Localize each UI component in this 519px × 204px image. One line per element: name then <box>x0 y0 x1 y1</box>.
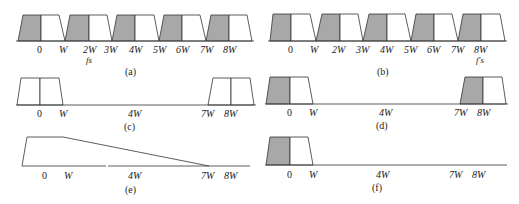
panel-f: 0 W 4W 7W 8W (f) <box>265 137 507 194</box>
panel-c-spectrum-0-left <box>17 78 40 105</box>
tick-label: 0 <box>287 107 292 118</box>
panel-b-replica-4 <box>411 14 458 41</box>
panel-f-spectrum-shaded <box>266 137 290 165</box>
tick-label: 3W <box>103 44 119 55</box>
fs-prime-label: f's <box>476 55 484 65</box>
tick-label: 4W <box>380 44 395 55</box>
panel-b-replica-2 <box>316 14 363 41</box>
fs-label: fs <box>86 55 93 65</box>
panel-b-replica-5 <box>458 14 505 41</box>
tick-label: 4W <box>129 44 144 55</box>
panel-c-caption: (c) <box>124 121 135 133</box>
panel-a-replica-4 <box>159 15 206 41</box>
tick-label: 8W <box>474 44 489 55</box>
tick-label: W <box>310 44 320 55</box>
tick-label: 6W <box>427 44 442 55</box>
panel-a-replica-5 <box>206 15 252 41</box>
tick-label: 4W <box>379 107 394 118</box>
tick-label: 7W <box>451 44 466 55</box>
tick-label: W <box>309 169 319 180</box>
tick-label: 0 <box>42 170 47 181</box>
tick-label: W <box>59 108 69 119</box>
tick-label: 8W <box>224 108 239 119</box>
tick-label: 0 <box>37 44 42 55</box>
spectrum-diagram: 0 W 2W 3W 4W 5W 6W 7W 8W fs (a) <box>0 0 519 204</box>
tick-label: W <box>64 170 74 181</box>
panel-d-spectrum-0-right <box>290 77 313 104</box>
panel-e-filter-response <box>22 137 209 166</box>
panel-a: 0 W 2W 3W 4W 5W 6W 7W 8W fs (a) <box>16 15 254 78</box>
panel-b: 0 W 2W 3W 4W 5W 6W 7W 8W f's (b) <box>268 14 507 78</box>
panel-b-replica-1 <box>270 14 316 41</box>
panel-f-spectrum-right <box>290 137 313 165</box>
tick-label: 8W <box>223 44 238 55</box>
tick-label: 4W <box>376 169 391 180</box>
panel-c-spectrum-8w-left <box>208 78 231 105</box>
tick-label: 7W <box>449 169 464 180</box>
panel-a-replica-2 <box>65 15 112 41</box>
tick-label: W <box>59 44 69 55</box>
panel-d-spectrum-8w-shaded <box>460 77 483 104</box>
tick-label: W <box>309 107 319 118</box>
tick-label: 6W <box>176 44 191 55</box>
panel-f-caption: (f) <box>372 182 382 194</box>
tick-label: 4W <box>128 108 143 119</box>
tick-label: 7W <box>201 108 216 119</box>
panel-e-caption: (e) <box>125 184 136 196</box>
tick-label: 4W <box>128 170 143 181</box>
panel-a-replica-1 <box>18 15 65 41</box>
panel-a-replica-3 <box>112 15 159 41</box>
panel-d-spectrum-8w-right <box>483 77 506 104</box>
panel-b-caption: (b) <box>377 66 389 78</box>
tick-label: 8W <box>477 107 492 118</box>
tick-label: 2W <box>83 44 98 55</box>
panel-e: 0 W 4W 7W 8W (e) <box>22 137 250 196</box>
panel-d-spectrum-0-shaded <box>266 77 290 104</box>
tick-label: 5W <box>153 44 168 55</box>
panel-c: 0 W 4W 7W 8W (c) <box>16 78 256 133</box>
panel-b-replica-3 <box>363 14 411 41</box>
panel-d: 0 W 4W 7W 8W (d) <box>265 77 508 132</box>
tick-label: 0 <box>37 108 42 119</box>
tick-label: 8W <box>472 169 487 180</box>
panel-d-caption: (d) <box>376 120 388 132</box>
tick-label: 0 <box>287 169 292 180</box>
panel-c-spectrum-8w-right <box>231 78 254 105</box>
tick-label: 2W <box>332 44 347 55</box>
tick-label: 5W <box>404 44 419 55</box>
tick-label: 7W <box>454 107 469 118</box>
tick-label: 7W <box>200 44 215 55</box>
panel-a-caption: (a) <box>125 66 136 78</box>
tick-label: 8W <box>224 170 239 181</box>
panel-c-spectrum-0-right <box>40 78 63 105</box>
tick-label: 7W <box>201 170 216 181</box>
tick-label: 3W <box>355 44 371 55</box>
tick-label: 0 <box>288 44 293 55</box>
